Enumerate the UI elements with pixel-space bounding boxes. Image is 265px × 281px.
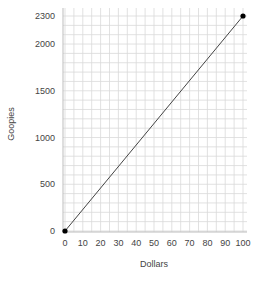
y-axis-label: Goopies	[6, 107, 16, 141]
x-axis-label: Dollars	[140, 259, 169, 269]
y-tick-label: 2300	[35, 11, 55, 21]
x-axis-ticks: 0102030405060708090100	[62, 238, 250, 248]
x-tick-label: 90	[220, 238, 230, 248]
data-point-marker	[62, 228, 67, 233]
x-tick-label: 70	[185, 238, 195, 248]
x-tick-label: 100	[235, 238, 250, 248]
axes	[63, 8, 247, 232]
grid-lines	[63, 8, 247, 232]
y-tick-label: 1000	[35, 133, 55, 143]
x-tick-label: 80	[202, 238, 212, 248]
y-tick-label: 500	[40, 179, 55, 189]
y-tick-label: 1500	[35, 86, 55, 96]
y-tick-label: 0	[50, 226, 55, 236]
y-tick-label: 2000	[35, 39, 55, 49]
x-tick-label: 50	[149, 238, 159, 248]
x-tick-label: 10	[78, 238, 88, 248]
y-axis-ticks: 05001000150020002300	[35, 11, 55, 236]
data-point-marker	[240, 13, 245, 18]
x-tick-label: 60	[167, 238, 177, 248]
x-tick-label: 20	[96, 238, 106, 248]
x-tick-label: 40	[131, 238, 141, 248]
line-chart: 05001000150020002300 0102030405060708090…	[0, 0, 265, 281]
x-tick-label: 0	[62, 238, 67, 248]
x-tick-label: 30	[113, 238, 123, 248]
